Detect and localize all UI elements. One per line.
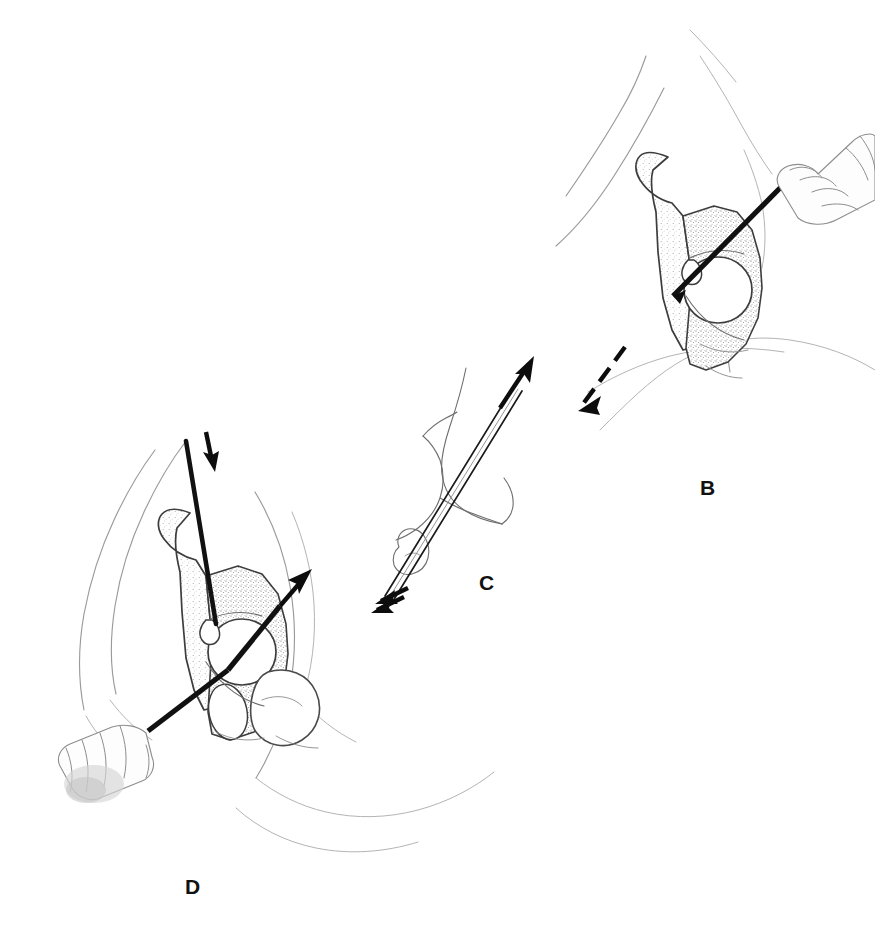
figure-root: B C D bbox=[0, 0, 875, 944]
panel-label-c: C bbox=[479, 572, 495, 593]
figure-illustration bbox=[0, 0, 875, 944]
canvas-background bbox=[0, 0, 875, 944]
panel-d-femoral-head bbox=[251, 670, 320, 746]
panel-label-b: B bbox=[700, 477, 716, 498]
panel-label-d: D bbox=[185, 876, 201, 897]
